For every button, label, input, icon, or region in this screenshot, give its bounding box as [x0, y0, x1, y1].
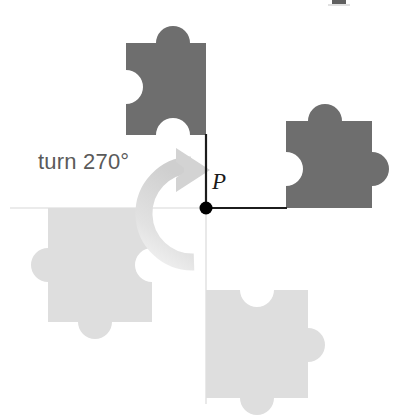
figure-canvas: turn 270° P — [0, 0, 410, 416]
point-p-label: P — [212, 170, 226, 193]
piece-left-light — [31, 208, 152, 339]
scan-artifact — [328, 0, 350, 6]
piece-bottom-light — [206, 290, 325, 415]
center-point-dot — [200, 202, 213, 215]
rotation-diagram-svg — [0, 0, 410, 416]
piece-right-dark — [286, 104, 389, 208]
turn-label: turn 270° — [38, 151, 129, 173]
rotation-arrow-icon — [144, 148, 210, 262]
piece-top-dark — [126, 26, 206, 135]
